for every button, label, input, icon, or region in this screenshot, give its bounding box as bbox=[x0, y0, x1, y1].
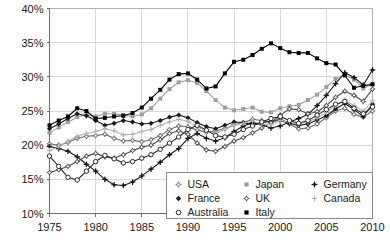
data-point-marker bbox=[296, 121, 300, 125]
data-point-marker bbox=[176, 117, 181, 122]
data-point-marker bbox=[75, 106, 79, 110]
x-tick-label: 1990 bbox=[176, 221, 200, 233]
data-point-marker bbox=[352, 106, 356, 110]
data-point-marker bbox=[139, 129, 144, 134]
data-point-marker bbox=[148, 127, 153, 132]
data-point-marker bbox=[269, 110, 273, 114]
data-point-marker bbox=[103, 116, 107, 120]
data-point-marker bbox=[94, 117, 98, 121]
data-point-marker bbox=[306, 118, 310, 122]
data-point-marker bbox=[231, 138, 237, 144]
data-point-marker bbox=[112, 121, 117, 126]
data-point-marker bbox=[204, 136, 210, 142]
data-point-marker bbox=[66, 175, 70, 179]
data-point-marker bbox=[251, 106, 255, 110]
data-point-marker bbox=[213, 138, 219, 144]
data-point-marker bbox=[232, 132, 236, 136]
data-point-marker bbox=[130, 132, 135, 137]
data-point-marker bbox=[287, 118, 291, 122]
data-point-marker bbox=[121, 161, 125, 165]
data-point-marker bbox=[269, 41, 273, 45]
data-point-marker bbox=[74, 159, 80, 165]
data-point-marker bbox=[112, 128, 117, 133]
data-point-marker bbox=[149, 106, 153, 110]
data-point-marker bbox=[167, 78, 171, 82]
data-point-marker bbox=[148, 121, 153, 126]
data-point-marker bbox=[93, 129, 98, 134]
data-point-marker bbox=[296, 116, 302, 122]
data-point-marker bbox=[167, 115, 172, 120]
data-point-marker bbox=[352, 86, 356, 90]
data-point-marker bbox=[260, 110, 264, 114]
data-point-marker bbox=[121, 183, 127, 189]
data-point-marker bbox=[130, 138, 136, 144]
data-point-marker bbox=[131, 111, 135, 115]
data-point-marker bbox=[315, 56, 319, 60]
data-point-marker bbox=[176, 123, 182, 129]
series-line bbox=[50, 75, 373, 133]
data-point-marker bbox=[131, 114, 135, 118]
data-point-marker bbox=[244, 210, 248, 214]
data-point-marker bbox=[186, 78, 190, 82]
data-point-marker bbox=[158, 97, 162, 101]
x-tick-label: 2010 bbox=[360, 221, 384, 233]
data-point-marker bbox=[260, 47, 264, 51]
data-point-marker bbox=[158, 88, 162, 92]
data-point-marker bbox=[343, 99, 347, 103]
data-point-marker bbox=[121, 118, 126, 123]
data-point-marker bbox=[130, 148, 136, 154]
data-point-marker bbox=[48, 131, 52, 135]
data-point-marker bbox=[315, 113, 319, 117]
data-point-marker bbox=[214, 84, 218, 88]
data-point-marker bbox=[185, 119, 190, 124]
data-point-marker bbox=[130, 159, 134, 163]
data-point-marker bbox=[324, 61, 328, 65]
data-point-marker bbox=[140, 156, 144, 160]
data-point-marker bbox=[121, 152, 127, 158]
data-point-marker bbox=[213, 133, 217, 137]
data-point-marker bbox=[111, 136, 117, 142]
chart-canvas: 10%15%20%25%30%35%40% 197519801985199019… bbox=[0, 0, 390, 246]
data-point-marker bbox=[139, 121, 144, 126]
legend-label: Germany bbox=[324, 178, 368, 190]
data-point-marker bbox=[47, 148, 52, 153]
data-point-marker bbox=[149, 97, 153, 101]
y-tick-label: 35% bbox=[21, 37, 43, 49]
data-point-marker bbox=[222, 144, 228, 150]
data-point-marker bbox=[232, 60, 236, 64]
data-point-marker bbox=[57, 164, 61, 168]
data-point-marker bbox=[278, 106, 282, 110]
x-tick-label: 1975 bbox=[37, 221, 61, 233]
data-point-marker bbox=[167, 141, 171, 145]
data-point-marker bbox=[57, 119, 61, 123]
data-point-marker bbox=[297, 103, 301, 107]
data-point-marker bbox=[177, 72, 181, 76]
data-point-marker bbox=[186, 127, 190, 131]
x-tick-label: 2005 bbox=[314, 221, 338, 233]
x-tick-label: 1980 bbox=[83, 221, 107, 233]
data-point-marker bbox=[241, 58, 245, 62]
data-point-marker bbox=[103, 153, 107, 157]
data-point-marker bbox=[66, 114, 70, 118]
data-point-marker bbox=[148, 142, 154, 148]
data-point-marker bbox=[334, 77, 338, 81]
legend-label: Australia bbox=[188, 206, 229, 218]
legend-label: USA bbox=[188, 178, 210, 190]
data-point-marker bbox=[140, 106, 144, 110]
data-point-marker bbox=[204, 128, 208, 132]
data-point-marker bbox=[194, 131, 200, 137]
data-point-marker bbox=[371, 82, 375, 86]
data-point-marker bbox=[47, 170, 53, 176]
data-point-marker bbox=[47, 154, 51, 158]
series-line bbox=[50, 43, 373, 125]
data-point-marker bbox=[361, 84, 365, 88]
data-point-marker bbox=[278, 114, 282, 118]
data-point-marker bbox=[48, 123, 52, 127]
data-point-marker bbox=[177, 80, 181, 84]
x-tick-label: 2000 bbox=[268, 221, 292, 233]
data-point-marker bbox=[177, 135, 181, 139]
data-point-marker bbox=[112, 157, 116, 161]
data-point-marker bbox=[231, 123, 236, 128]
data-point-marker bbox=[251, 53, 255, 57]
data-point-marker bbox=[121, 138, 127, 144]
